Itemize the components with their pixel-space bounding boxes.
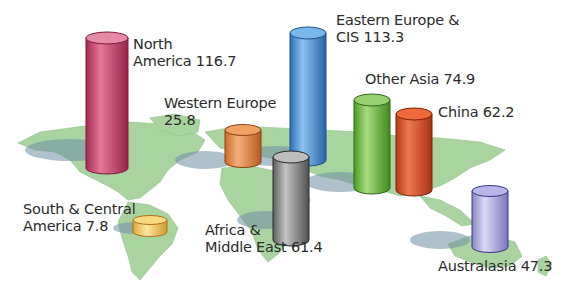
label-africa-middle-east: Africa & Middle East 61.4: [205, 222, 323, 256]
cylinder-north-america: [86, 32, 128, 174]
cylinder-eastern-europe-cis: [290, 27, 326, 166]
label-eastern-europe-cis: Eastern Europe & CIS 113.3: [336, 12, 459, 46]
label-line: South & Central: [23, 201, 135, 218]
label-line: Australasia 47.3: [438, 258, 552, 275]
cylinder-china: [396, 108, 432, 196]
cylinder-australasia: [472, 186, 508, 253]
cylinder-other-asia: [354, 94, 390, 194]
label-line: CIS 113.3: [336, 29, 459, 46]
label-china: China 62.2: [438, 104, 514, 121]
cylinder-western-europe: [225, 125, 261, 168]
label-line: America 7.8: [23, 218, 135, 235]
label-line: China 62.2: [438, 104, 514, 121]
southeast-asia-landmass: [420, 196, 475, 226]
label-line: Middle East 61.4: [205, 239, 323, 256]
label-south-central-america: South & Central America 7.8: [23, 201, 135, 235]
label-line: 25.8: [164, 112, 276, 129]
label-line: Western Europe: [164, 95, 276, 112]
label-north-america: North America 116.7: [133, 36, 236, 70]
label-line: America 116.7: [133, 53, 236, 70]
label-australasia: Australasia 47.3: [438, 258, 552, 275]
label-western-europe: Western Europe 25.8: [164, 95, 276, 129]
label-line: Eastern Europe &: [336, 12, 459, 29]
cylinder-south-central-america: [133, 216, 167, 237]
label-line: Other Asia 74.9: [365, 71, 475, 88]
chart-stage: North America 116.7 Western Europe 25.8 …: [0, 0, 580, 295]
label-other-asia: Other Asia 74.9: [365, 71, 475, 88]
label-line: North: [133, 36, 236, 53]
label-line: Africa &: [205, 222, 323, 239]
